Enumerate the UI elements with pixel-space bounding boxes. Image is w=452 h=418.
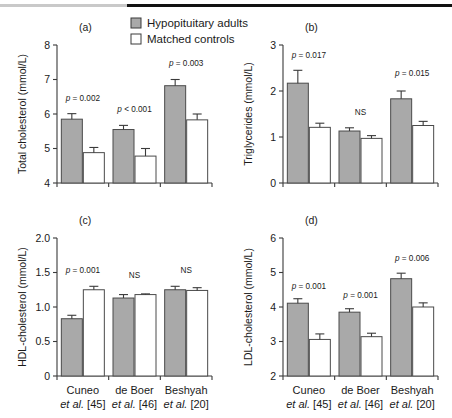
x-category-ref-2: et al. [20] bbox=[164, 398, 209, 410]
header-rule-right bbox=[127, 4, 452, 7]
legend-label-0: Hypopituitary adults bbox=[147, 17, 248, 29]
y-tick-label: 4 bbox=[270, 301, 276, 313]
bar-hypopituitary-group-1 bbox=[339, 312, 360, 376]
x-category-label-0: Cuneo bbox=[67, 384, 99, 396]
stat-annotation-group-0: p = 0.017 bbox=[291, 51, 327, 60]
bar-control-group-2 bbox=[413, 307, 434, 376]
y-tick-label: 2.0 bbox=[35, 232, 50, 244]
y-axis-title: HDL-cholesterol (mmol/L) bbox=[16, 247, 28, 367]
x-category-ref-0: et al. [45] bbox=[286, 398, 331, 410]
stat-annotation-group-1: NS bbox=[129, 271, 141, 280]
bar-hypopituitary-group-1 bbox=[339, 131, 360, 183]
x-category-ref-0: et al. [45] bbox=[60, 398, 105, 410]
x-category-refnum: [46] bbox=[362, 398, 383, 410]
stat-annotation-group-2: NS bbox=[180, 266, 192, 275]
stat-annotation-value: = 0.001 bbox=[296, 282, 326, 291]
stat-annotation-value: NS bbox=[180, 266, 192, 275]
x-category-etal: et al. bbox=[164, 398, 188, 410]
y-tick-label: 4 bbox=[44, 177, 50, 189]
x-category-etal: et al. bbox=[338, 398, 362, 410]
stat-annotation-group-0: p = 0.002 bbox=[65, 94, 101, 103]
panel-c: (c)00.51.01.52.0HDL-cholesterol (mmol/L)… bbox=[16, 214, 212, 410]
stat-annotation-group-0: p = 0.001 bbox=[291, 282, 327, 291]
stat-annotation-group-2: p = 0.006 bbox=[394, 254, 430, 263]
stat-annotation-value: = 0.017 bbox=[296, 51, 326, 60]
bar-control-group-1 bbox=[135, 156, 156, 183]
panel-label-b: (b) bbox=[305, 21, 318, 33]
panel-label-a: (a) bbox=[79, 21, 92, 33]
bar-hypopituitary-group-1 bbox=[113, 298, 134, 376]
panel-a: (a)45678Total cholesterol (mmol/L)p = 0.… bbox=[16, 21, 212, 189]
bar-hypopituitary-group-0 bbox=[61, 119, 82, 183]
bar-hypopituitary-group-1 bbox=[113, 130, 134, 183]
legend-label-1: Matched controls bbox=[147, 33, 235, 45]
stat-annotation-value: = 0.003 bbox=[174, 59, 204, 68]
bar-control-group-2 bbox=[187, 120, 208, 183]
y-tick-label: 6 bbox=[44, 108, 50, 120]
stat-annotation-value: NS bbox=[355, 108, 367, 117]
y-tick-label: 6 bbox=[270, 232, 276, 244]
legend-swatch-hypopituitary bbox=[131, 18, 141, 28]
y-tick-label: 3 bbox=[270, 335, 276, 347]
x-category-etal: et al. bbox=[112, 398, 136, 410]
stat-annotation-group-2: p = 0.003 bbox=[168, 59, 204, 68]
y-tick-label: 1.5 bbox=[35, 266, 50, 278]
x-category-label-1: de Boer bbox=[115, 384, 154, 396]
y-axis-title: Triglycerides (mmol/L) bbox=[242, 62, 254, 165]
stat-annotation-value: = 0.006 bbox=[400, 254, 430, 263]
stat-annotation-value: = 0.001 bbox=[70, 266, 100, 275]
bar-hypopituitary-group-0 bbox=[287, 83, 308, 183]
y-tick-label: 7 bbox=[44, 73, 50, 85]
legend-swatch-control bbox=[131, 34, 141, 44]
bar-control-group-0 bbox=[83, 290, 104, 376]
y-tick-label: 1 bbox=[270, 131, 276, 143]
bar-control-group-1 bbox=[135, 295, 156, 376]
x-category-label-2: Beshyah bbox=[391, 384, 434, 396]
x-category-ref-2: et al. [20] bbox=[390, 398, 435, 410]
bar-hypopituitary-group-2 bbox=[165, 290, 186, 376]
multi-panel-bar-figure: (a)45678Total cholesterol (mmol/L)p = 0.… bbox=[0, 0, 452, 418]
x-category-label-2: Beshyah bbox=[165, 384, 208, 396]
bar-hypopituitary-group-2 bbox=[391, 279, 412, 376]
stat-annotation-group-1: p < 0.001 bbox=[116, 105, 152, 114]
x-category-refnum: [20] bbox=[187, 398, 208, 410]
panel-b: (b)0123Triglycerides (mmol/L)p = 0.017NS… bbox=[242, 21, 438, 189]
x-category-refnum: [20] bbox=[413, 398, 434, 410]
x-category-label-1: de Boer bbox=[341, 384, 380, 396]
bar-hypopituitary-group-0 bbox=[287, 303, 308, 376]
y-axis-title: Total cholesterol (mmol/L) bbox=[16, 54, 28, 174]
bar-control-group-1 bbox=[361, 337, 382, 376]
y-tick-label: 8 bbox=[44, 39, 50, 51]
bar-hypopituitary-group-2 bbox=[165, 86, 186, 183]
y-tick-label: 5 bbox=[44, 142, 50, 154]
header-rule-left bbox=[0, 4, 127, 7]
y-axis-title: LDL-cholesterol (mmol/L) bbox=[242, 248, 254, 366]
panel-label-c: (c) bbox=[79, 214, 91, 226]
x-category-label-0: Cuneo bbox=[293, 384, 325, 396]
x-category-etal: et al. bbox=[286, 398, 310, 410]
y-tick-label: 0.5 bbox=[35, 335, 50, 347]
y-tick-label: 0 bbox=[270, 177, 276, 189]
y-tick-label: 3 bbox=[270, 39, 276, 51]
stat-annotation-value: = 0.015 bbox=[400, 69, 430, 78]
bar-control-group-0 bbox=[83, 153, 104, 183]
bar-control-group-0 bbox=[309, 339, 330, 376]
panel-d: (d)23456LDL-cholesterol (mmol/L)p = 0.00… bbox=[242, 214, 438, 410]
x-category-ref-1: et al. [46] bbox=[112, 398, 157, 410]
bar-hypopituitary-group-0 bbox=[61, 319, 82, 376]
bar-control-group-2 bbox=[413, 126, 434, 184]
stat-annotation-group-2: p = 0.015 bbox=[394, 69, 430, 78]
stat-annotation-value: < 0.001 bbox=[122, 105, 152, 114]
bar-control-group-2 bbox=[187, 290, 208, 376]
panel-label-d: (d) bbox=[305, 214, 318, 226]
x-category-etal: et al. bbox=[60, 398, 84, 410]
y-tick-label: 5 bbox=[270, 266, 276, 278]
legend: Hypopituitary adultsMatched controls bbox=[131, 17, 248, 45]
y-tick-label: 0 bbox=[44, 370, 50, 382]
stat-annotation-value: = 0.002 bbox=[70, 94, 100, 103]
stat-annotation-group-1: p = 0.001 bbox=[342, 291, 378, 300]
stat-annotation-value: NS bbox=[129, 271, 141, 280]
x-category-refnum: [46] bbox=[136, 398, 157, 410]
figure-root: (a)45678Total cholesterol (mmol/L)p = 0.… bbox=[0, 0, 452, 418]
x-category-refnum: [45] bbox=[84, 398, 105, 410]
